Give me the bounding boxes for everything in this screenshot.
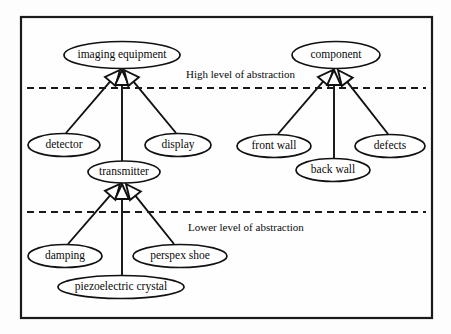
node-ellipse[interactable] [237,135,311,158]
concept-node-back-wall[interactable]: back wall [296,159,370,182]
concept-node-display[interactable]: display [145,134,211,157]
abstraction-level-label: High level of abstraction [186,68,296,80]
concept-node-defects[interactable]: defects [355,135,425,158]
concept-node-imaging-equipment[interactable]: imaging equipment [64,42,180,69]
node-ellipse[interactable] [64,42,180,69]
node-ellipse[interactable] [88,161,160,183]
abstraction-hierarchy-diagram: High level of abstractionLower level of … [0,0,451,334]
concept-node-damping[interactable]: damping [28,245,102,268]
node-ellipse[interactable] [58,276,184,299]
concept-node-component[interactable]: component [292,42,380,69]
node-ellipse[interactable] [355,135,425,158]
node-ellipse[interactable] [296,159,370,182]
concept-node-detector[interactable]: detector [28,134,100,157]
concept-node-piezoelectric-crystal[interactable]: piezoelectric crystal [58,276,184,299]
node-ellipse[interactable] [28,134,100,157]
abstraction-level-label: Lower level of abstraction [188,221,304,233]
diagram-canvas: High level of abstractionLower level of … [0,0,451,334]
concept-node-front-wall[interactable]: front wall [237,135,311,158]
concept-node-transmitter[interactable]: transmitter [88,161,160,183]
node-ellipse[interactable] [292,42,380,69]
node-ellipse[interactable] [28,245,102,268]
node-ellipse[interactable] [133,245,227,268]
node-ellipse[interactable] [145,134,211,157]
concept-node-perspex-shoe[interactable]: perspex shoe [133,245,227,268]
